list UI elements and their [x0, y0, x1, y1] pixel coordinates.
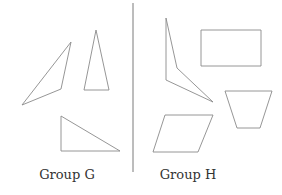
group-g-shapes — [22, 30, 120, 151]
acute-isosceles-triangle — [84, 30, 109, 90]
shapes-canvas — [0, 0, 282, 195]
rectangle — [201, 30, 261, 66]
right-triangle — [61, 116, 120, 151]
group-g-label: Group G — [39, 167, 95, 182]
obtuse-triangle — [22, 42, 71, 105]
group-h-shapes — [153, 18, 272, 152]
trapezoid — [225, 91, 272, 128]
concave-quadrilateral — [166, 18, 213, 102]
group-h-label: Group H — [160, 167, 217, 182]
parallelogram — [153, 115, 213, 152]
